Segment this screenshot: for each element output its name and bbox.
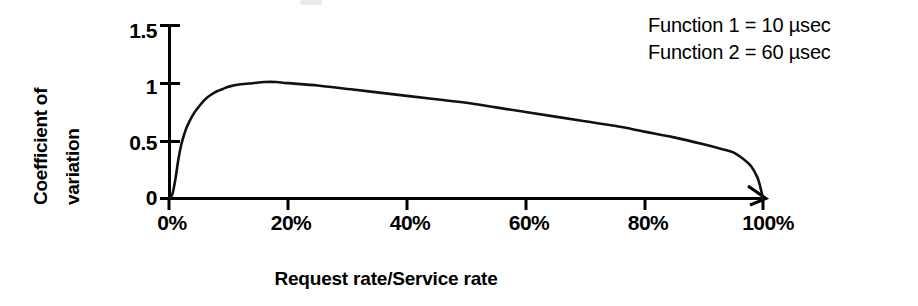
legend: Function 1 = 10 µsec Function 2 = 60 µse…	[648, 12, 910, 66]
x-tick-label-100: 100%	[742, 212, 794, 233]
x-tick-label-20: 20%	[271, 212, 312, 233]
x-tick-label-80: 80%	[628, 212, 669, 233]
x-tick-label-40: 40%	[390, 212, 431, 233]
legend-row-function-1: Function 1 = 10 µsec	[648, 12, 910, 39]
legend-row-function-2: Function 2 = 60 µsec	[648, 39, 910, 66]
x-tick-label-0: 0%	[157, 212, 186, 233]
x-axis-title: Request rate/Service rate	[0, 268, 772, 290]
data-curve	[170, 82, 764, 199]
x-tick-label-60: 60%	[509, 212, 550, 233]
chart-figure: Coefficient of variation 1.5 1 0.5 0 0%	[0, 0, 918, 306]
x-axis-tick-labels: 0% 20% 40% 60% 80% 100%	[0, 212, 918, 246]
